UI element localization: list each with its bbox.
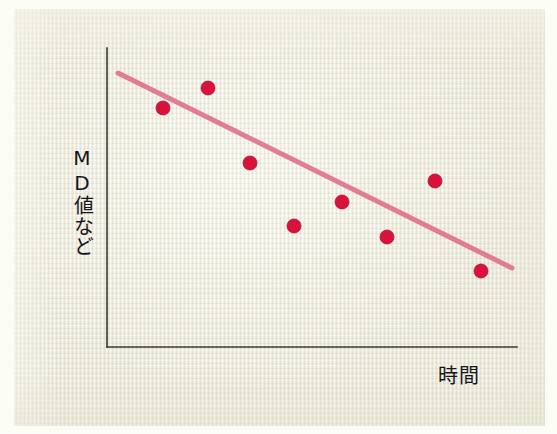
- data-point: [243, 156, 257, 170]
- trend-line: [118, 73, 512, 268]
- y-axis-label: MD値など: [60, 140, 94, 262]
- data-point: [335, 195, 349, 209]
- data-point: [428, 174, 442, 188]
- chart-figure: MD値など 時間: [0, 0, 557, 434]
- axes: [107, 48, 517, 347]
- data-point: [201, 81, 215, 95]
- data-point: [474, 264, 488, 278]
- data-point: [287, 219, 301, 233]
- x-axis-label: 時間: [438, 364, 479, 388]
- data-points: [156, 81, 488, 278]
- data-point: [380, 230, 394, 244]
- regression-line: [118, 73, 512, 268]
- data-point: [156, 101, 170, 115]
